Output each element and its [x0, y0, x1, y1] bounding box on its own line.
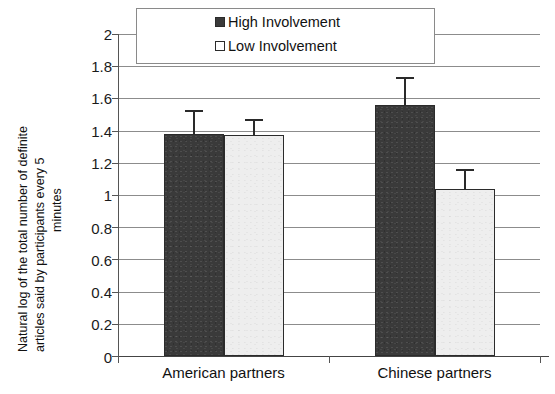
bar-american-low: [224, 135, 284, 356]
legend-label-low-involvement: Low Involvement: [228, 38, 337, 54]
error-bar-stem: [253, 119, 255, 135]
error-bar-cap: [185, 110, 203, 112]
y-axis-tickmark: [112, 195, 119, 196]
legend-item-high-involvement[interactable]: High Involvement: [215, 14, 340, 30]
y-axis-title-line-1: Natural log of the total number of defin…: [16, 126, 30, 352]
gridline: [118, 98, 540, 99]
gridline: [118, 131, 540, 132]
y-tick-label: 1.6: [68, 91, 112, 106]
y-axis-tickmark: [112, 324, 119, 325]
x-axis-tick: [118, 356, 119, 363]
y-axis-tickmark: [112, 66, 119, 67]
bar-chinese-low: [435, 189, 495, 356]
y-tick-label: 1.4: [68, 124, 112, 139]
bar-chinese-high: [375, 105, 435, 356]
error-bar-cap: [245, 119, 263, 121]
x-axis-tick: [329, 356, 330, 363]
y-axis-title-line-2: articles said by participants every 5: [33, 157, 47, 352]
y-tick-label: 1.8: [68, 59, 112, 74]
bar-chart: Natural log of the total number of defin…: [0, 0, 555, 394]
error-bar-cap: [456, 169, 474, 171]
y-axis-tickmark: [112, 259, 119, 260]
y-tick-label: 0.8: [68, 221, 112, 236]
gridline: [118, 66, 540, 67]
legend: High Involvement Low Involvement: [136, 8, 435, 64]
y-tick-label: 1: [68, 188, 112, 203]
y-axis-tickmark: [112, 227, 119, 228]
x-axis-category-chinese: Chinese partners: [329, 364, 540, 381]
legend-item-low-involvement[interactable]: Low Involvement: [215, 38, 337, 54]
y-tick-label: 0: [68, 350, 112, 365]
y-tick-label: 0.4: [68, 285, 112, 300]
x-axis-category-american: American partners: [118, 364, 329, 381]
y-axis-tickmark: [112, 292, 119, 293]
y-axis-title: Natural log of the total number of defin…: [0, 0, 62, 360]
x-axis-line: [112, 356, 549, 357]
bar-american-high: [164, 134, 224, 356]
error-bar-cap: [396, 77, 414, 79]
error-bar-stem: [404, 77, 406, 105]
legend-label-high-involvement: High Involvement: [228, 14, 340, 30]
y-tick-label: 0.2: [68, 317, 112, 332]
y-axis-tickmark: [112, 34, 119, 35]
error-bar-stem: [193, 110, 195, 134]
y-tick-label: 2: [68, 27, 112, 42]
filled-square-marker-icon: [215, 17, 225, 27]
y-axis-tickmark: [112, 131, 119, 132]
y-tick-label: 1.2: [68, 156, 112, 171]
x-axis-tick: [540, 356, 541, 363]
empty-square-marker-icon: [215, 41, 225, 51]
y-axis-tickmark: [112, 163, 119, 164]
y-axis-tick-labels: 2 1.8 1.6 1.4 1.2 1 0.8 0.6 0.4 0.2 0: [62, 0, 112, 394]
plot-area: [118, 34, 540, 356]
error-bar-stem: [464, 169, 466, 189]
y-axis-tickmark: [112, 98, 119, 99]
y-tick-label: 0.6: [68, 253, 112, 268]
